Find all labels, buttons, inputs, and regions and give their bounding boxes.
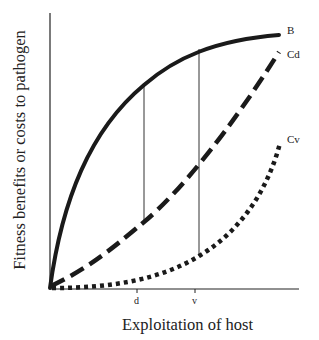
curve-cv xyxy=(52,143,280,288)
curve-b xyxy=(50,35,279,288)
label-b: B xyxy=(287,24,294,36)
label-cv: Cv xyxy=(287,133,300,145)
trade-off-diagram: B Cd Cv d v xyxy=(0,0,319,340)
tick-label-v: v xyxy=(192,295,197,306)
y-axis-title: Fitness benefits or costs to pathogen xyxy=(10,30,30,270)
curve-cd xyxy=(51,52,279,286)
tick-label-d: d xyxy=(134,295,139,306)
label-cd: Cd xyxy=(287,48,300,60)
x-axis-title: Exploitation of host xyxy=(122,315,253,335)
